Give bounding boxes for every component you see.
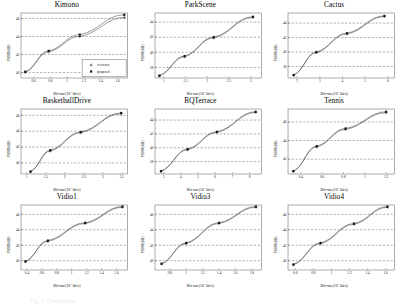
plot-svg: 3840424411.522.53 <box>134 9 268 96</box>
axes-frame <box>21 109 128 174</box>
y-tick-label: 46 <box>283 120 287 124</box>
x-tick-label: 1.2 <box>85 271 90 275</box>
series-line-reference <box>294 207 388 264</box>
axes-frame <box>21 205 128 270</box>
x-tick-label: 0.6 <box>40 271 45 275</box>
x-tick-label: 0.8 <box>312 271 317 275</box>
marker-proposed <box>215 131 217 133</box>
x-tick-label: 1.6 <box>115 79 120 83</box>
subplot-tennis: TennisPSNR(dB)Bit-rate(103 kb/s)4244460.… <box>267 96 401 192</box>
x-tick-label: 3 <box>102 175 104 179</box>
marker-proposed <box>49 149 51 151</box>
x-tick-label: 7 <box>231 175 233 179</box>
x-tick-label: 1 <box>66 79 68 83</box>
series-line-reference <box>161 112 256 171</box>
subplot-vidio1: Vidio1PSNR(dB)Bit-rate(103 kb/s)40424446… <box>0 192 134 288</box>
x-tick-label: 0.8 <box>55 271 60 275</box>
y-tick-label: 40 <box>16 71 20 75</box>
plot-area-wrapper: PSNR(dB)Bit-rate(103 kb/s)4244460.40.60.… <box>267 105 401 192</box>
y-tick-label: 44 <box>283 139 287 143</box>
y-tick-label: 38 <box>150 160 154 164</box>
x-tick-label: 3 <box>250 79 252 83</box>
marker-proposed <box>186 148 188 150</box>
y-tick-label: 44 <box>150 118 154 122</box>
y-tick-label: 40 <box>150 259 154 263</box>
marker-proposed <box>345 127 347 129</box>
y-tick-label: 46 <box>150 213 154 217</box>
plot-area-wrapper: PSNR(dB)Bit-rate(103 kb/s)404244460.60.8… <box>267 201 401 288</box>
y-tick-label: 38 <box>283 65 287 69</box>
x-tick-label: 2.5 <box>82 175 87 179</box>
y-tick-label: 42 <box>16 244 20 248</box>
marker-proposed <box>252 16 254 18</box>
x-tick-label: 1 <box>26 175 28 179</box>
y-tick-label: 44 <box>150 20 154 24</box>
marker-proposed <box>79 34 81 36</box>
y-tick-label: 42 <box>150 35 154 39</box>
series-line-proposed <box>294 16 385 75</box>
y-tick-label: 44 <box>150 228 154 232</box>
x-tick-label: 1.4 <box>366 271 371 275</box>
subplot-title: Vidio1 <box>0 193 134 201</box>
marker-proposed <box>183 55 185 57</box>
figure-caption: Fig. 5. Comparison <box>30 298 76 304</box>
plot-area-wrapper: PSNR(dB)Bit-rate(103 kb/s)404244460.811.… <box>134 201 268 288</box>
marker-proposed <box>47 239 49 241</box>
x-tick-label: 1.2 <box>348 271 353 275</box>
series-line-proposed <box>294 207 388 265</box>
plot-svg: 404244460.60.811.21.41.6referencepropose… <box>0 9 134 96</box>
x-tick-label: 1.6 <box>114 271 119 275</box>
x-tick-label: 0.8 <box>167 271 172 275</box>
subplot-title: ParkScene <box>134 1 268 9</box>
x-tick-label: 1.2 <box>82 79 87 83</box>
series-line-proposed <box>25 207 122 262</box>
plot-svg: 404244460.60.811.21.41.6 <box>267 201 401 288</box>
marker-proposed <box>385 111 387 113</box>
marker-proposed <box>120 112 122 114</box>
plot-area-wrapper: PSNR(dB)Bit-rate(103 kb/s)38404244345678 <box>134 105 268 192</box>
axes-frame <box>288 205 395 270</box>
x-tick-label: 1 <box>185 271 187 275</box>
series-line-reference <box>25 207 122 261</box>
marker-proposed <box>158 75 160 77</box>
series-line-proposed <box>161 207 255 264</box>
axes-frame <box>155 109 262 174</box>
x-tick-label: 0.8 <box>48 79 53 83</box>
y-tick-label: 42 <box>150 132 154 136</box>
subplot-title: BQTerrace <box>134 97 268 105</box>
marker-proposed <box>29 171 31 173</box>
marker-proposed <box>160 263 162 265</box>
x-tick-label: 3.5 <box>120 175 125 179</box>
x-tick-label: 1 <box>331 271 333 275</box>
x-tick-label: 0.6 <box>320 175 325 179</box>
x-tick-label: 1 <box>364 175 366 179</box>
series-line-reference <box>159 18 253 76</box>
series-line-reference <box>294 113 387 172</box>
x-tick-label: 1.4 <box>217 271 222 275</box>
y-tick-label: 46 <box>16 17 20 21</box>
legend-box <box>82 60 126 77</box>
series-line-proposed <box>161 112 256 171</box>
x-tick-label: 0.6 <box>293 271 298 275</box>
x-tick-label: 1.6 <box>384 271 389 275</box>
marker-proposed <box>346 32 348 34</box>
y-tick-label: 42 <box>16 145 20 149</box>
axes-frame <box>155 13 262 78</box>
y-tick-label: 42 <box>283 157 287 161</box>
marker-proposed <box>316 145 318 147</box>
axes-frame <box>288 13 395 78</box>
marker-proposed <box>316 51 318 53</box>
marker-proposed <box>293 170 295 172</box>
x-tick-label: 0.6 <box>31 79 36 83</box>
x-tick-label: 0.8 <box>342 175 347 179</box>
marker-proposed <box>24 260 26 262</box>
x-tick-label: 6 <box>387 79 389 83</box>
y-tick-label: 42 <box>283 244 287 248</box>
y-tick-label: 46 <box>283 213 287 217</box>
x-tick-label: 5 <box>197 175 199 179</box>
x-tick-label: 1.5 <box>44 175 49 179</box>
marker-proposed <box>185 242 187 244</box>
y-tick-label: 40 <box>150 146 154 150</box>
plot-svg: 3840424423456 <box>267 9 401 96</box>
y-tick-label: 46 <box>16 213 20 217</box>
